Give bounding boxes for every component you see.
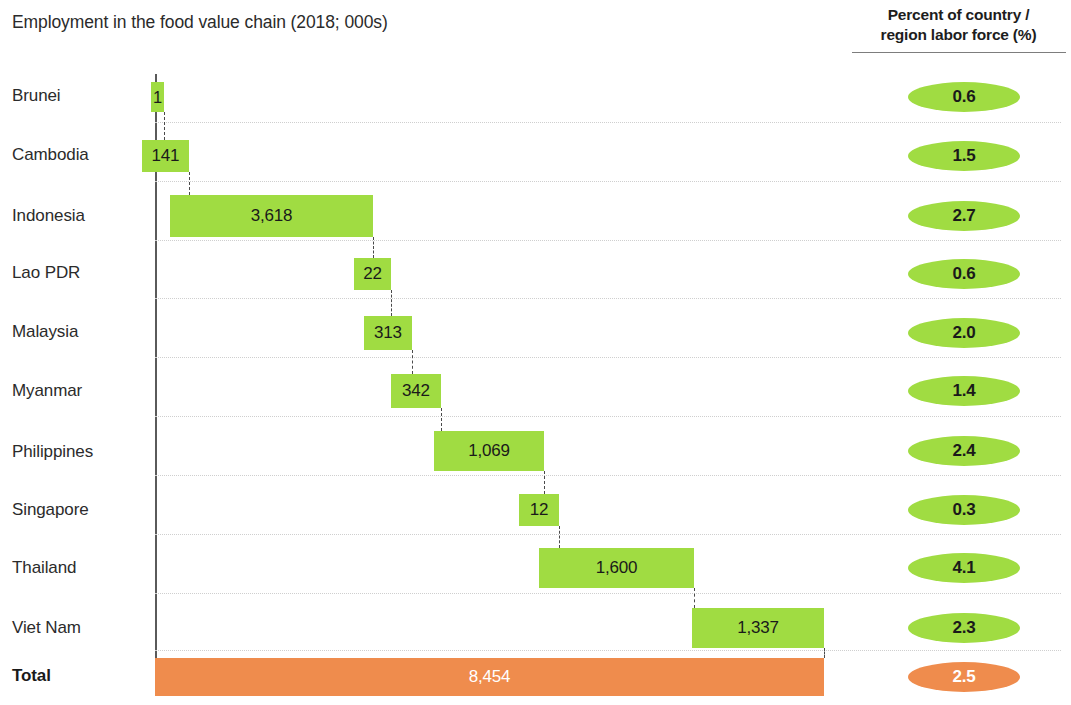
percent-pill-indonesia: 2.7 (908, 201, 1020, 231)
bar-total: 8,454 (155, 658, 824, 696)
percent-value-label: 2.3 (952, 618, 975, 638)
waterfall-connector (373, 237, 374, 258)
percent-header-line-1: Percent of country / (846, 5, 1071, 25)
percent-pill-brunei: 0.6 (908, 82, 1020, 112)
gridline (155, 181, 1061, 182)
waterfall-connector (441, 408, 442, 431)
bar-value-label: 22 (363, 264, 382, 284)
waterfall-connector (391, 290, 392, 316)
row-label-singapore: Singapore (12, 500, 89, 520)
percent-value-label: 4.1 (952, 558, 975, 578)
waterfall-connector (189, 172, 190, 195)
percent-pill-lao-pdr: 0.6 (908, 259, 1020, 289)
row-label-malaysia: Malaysia (12, 322, 78, 342)
gridline (155, 534, 1061, 535)
bar-cambodia: 141 (142, 140, 189, 172)
percent-pill-malaysia: 2.0 (908, 318, 1020, 348)
percent-value-label: 2.5 (952, 667, 975, 687)
bar-value-label: 8,454 (469, 667, 511, 687)
bar-value-label: 313 (374, 323, 402, 343)
bar-thailand: 1,600 (539, 548, 694, 588)
bar-value-label: 1,069 (468, 441, 510, 461)
bar-philippines: 1,069 (434, 431, 544, 471)
bar-myanmar: 342 (391, 374, 441, 408)
percent-pill-philippines: 2.4 (908, 436, 1020, 466)
gridline (155, 650, 1061, 651)
row-label-viet-nam: Viet Nam (12, 618, 81, 638)
bar-brunei: 1 (151, 82, 164, 112)
bar-value-label: 1 (153, 88, 162, 107)
gridline (155, 240, 1061, 241)
bar-value-label: 12 (530, 500, 549, 520)
bar-value-label: 141 (152, 146, 180, 166)
waterfall-chart: Employment in the food value chain (2018… (0, 0, 1071, 705)
bar-value-label: 1,600 (596, 558, 638, 578)
row-label-thailand: Thailand (12, 558, 76, 578)
waterfall-connector (164, 112, 165, 140)
percent-pill-total: 2.5 (908, 662, 1020, 692)
row-label-total: Total (12, 666, 51, 686)
percent-value-label: 1.4 (952, 381, 975, 401)
chart-title: Employment in the food value chain (2018… (12, 12, 388, 33)
percent-value-label: 1.5 (952, 146, 975, 166)
percent-header-line-2: region labor force (%) (846, 25, 1071, 45)
waterfall-connector (559, 526, 560, 548)
gridline (155, 416, 1061, 417)
percent-value-label: 0.6 (952, 264, 975, 284)
percent-value-label: 2.0 (952, 323, 975, 343)
gridline (155, 122, 1061, 123)
bar-malaysia: 313 (364, 316, 412, 350)
bar-value-label: 342 (402, 381, 430, 401)
percent-pill-cambodia: 1.5 (908, 141, 1020, 171)
row-label-cambodia: Cambodia (12, 145, 89, 165)
percent-value-label: 0.6 (952, 87, 975, 107)
percent-pill-myanmar: 1.4 (908, 376, 1020, 406)
percent-pill-singapore: 0.3 (908, 495, 1020, 525)
waterfall-connector (824, 648, 825, 658)
percent-value-label: 2.4 (952, 441, 975, 461)
row-label-indonesia: Indonesia (12, 206, 85, 226)
bar-lao-pdr: 22 (354, 258, 391, 290)
gridline (155, 298, 1061, 299)
bar-indonesia: 3,618 (170, 195, 373, 237)
row-label-myanmar: Myanmar (12, 381, 82, 401)
gridline (155, 593, 1061, 594)
percent-value-label: 2.7 (952, 206, 975, 226)
bar-value-label: 1,337 (737, 618, 779, 638)
row-label-philippines: Philippines (12, 442, 93, 462)
bar-viet-nam: 1,337 (692, 608, 824, 648)
percent-pill-thailand: 4.1 (908, 553, 1020, 583)
row-label-lao-pdr: Lao PDR (12, 263, 80, 283)
waterfall-connector (412, 350, 413, 374)
bar-value-label: 3,618 (251, 206, 293, 226)
gridline (155, 475, 1061, 476)
row-label-brunei: Brunei (12, 86, 61, 106)
percent-column-header: Percent of country / region labor force … (846, 5, 1071, 45)
percent-value-label: 0.3 (952, 500, 975, 520)
bar-singapore: 12 (519, 494, 559, 526)
waterfall-connector (544, 471, 545, 494)
percent-pill-viet-nam: 2.3 (908, 613, 1020, 643)
waterfall-connector (694, 588, 695, 608)
gridline (155, 357, 1061, 358)
percent-header-divider (852, 52, 1066, 53)
